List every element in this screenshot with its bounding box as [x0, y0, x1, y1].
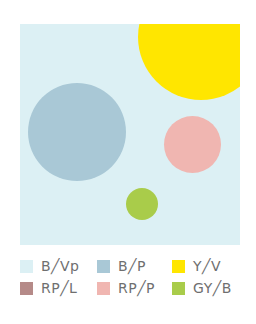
- legend-item-gy-b: GY╱B: [172, 280, 232, 296]
- legend-label: GY╱B: [193, 280, 232, 296]
- legend-item-b-p: B╱P: [97, 258, 146, 274]
- color-diagram-panel: [20, 24, 240, 245]
- legend-label: B╱P: [118, 258, 146, 274]
- legend-label: Y╱V: [193, 258, 221, 274]
- swatch-icon: [97, 282, 110, 295]
- legend-item-y-v: Y╱V: [172, 258, 221, 274]
- legend-item-b-vp: B╱Vp: [20, 258, 80, 274]
- swatch-icon: [20, 260, 33, 273]
- legend-label: RP╱P: [118, 280, 155, 296]
- swatch-icon: [172, 260, 185, 273]
- circle-y-v: [138, 24, 240, 100]
- swatch-icon: [20, 282, 33, 295]
- swatch-icon: [97, 260, 110, 273]
- circle-rp-p: [164, 116, 221, 173]
- circle-gy-b: [126, 188, 158, 220]
- legend-label: B╱Vp: [41, 258, 80, 274]
- legend-item-rp-l: RP╱L: [20, 280, 77, 296]
- legend-item-rp-p: RP╱P: [97, 280, 155, 296]
- swatch-icon: [172, 282, 185, 295]
- legend-label: RP╱L: [41, 280, 77, 296]
- circle-b-p: [28, 83, 126, 181]
